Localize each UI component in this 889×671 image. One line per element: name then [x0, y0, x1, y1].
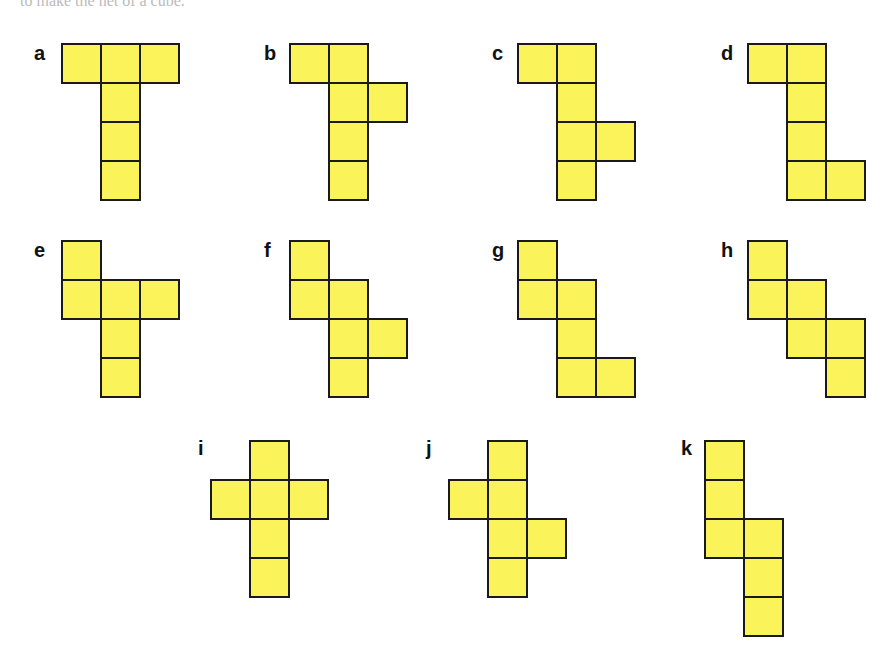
- net-d-square: [786, 121, 827, 162]
- net-label-e: e: [34, 239, 45, 262]
- net-e-square: [61, 240, 102, 281]
- net-k-square: [704, 440, 745, 481]
- net-label-c: c: [492, 42, 503, 65]
- net-f-square: [367, 318, 408, 359]
- net-b-square: [328, 160, 369, 201]
- net-h-square: [786, 279, 827, 320]
- net-f-square: [289, 240, 330, 281]
- net-j-square: [487, 479, 528, 520]
- net-label-j: j: [426, 437, 432, 460]
- net-d-square: [786, 43, 827, 84]
- net-k-square: [743, 518, 784, 559]
- net-e-square: [100, 279, 141, 320]
- net-g-square: [556, 357, 597, 398]
- net-h-square: [747, 279, 788, 320]
- net-j-square: [487, 440, 528, 481]
- net-h-square: [786, 318, 827, 359]
- net-label-g: g: [492, 239, 504, 262]
- net-i-square: [249, 479, 290, 520]
- net-b-square: [289, 43, 330, 84]
- net-j-square: [487, 557, 528, 598]
- net-f-square: [289, 279, 330, 320]
- net-label-d: d: [721, 42, 733, 65]
- net-g-square: [517, 240, 558, 281]
- net-a-square: [100, 43, 141, 84]
- net-a-square: [100, 160, 141, 201]
- net-a-square: [100, 82, 141, 123]
- net-c-square: [595, 121, 636, 162]
- net-e-square: [100, 357, 141, 398]
- net-label-a: a: [34, 42, 45, 65]
- net-d-square: [786, 82, 827, 123]
- net-d-square: [786, 160, 827, 201]
- net-c-square: [517, 43, 558, 84]
- net-c-square: [556, 160, 597, 201]
- net-f-square: [328, 279, 369, 320]
- net-c-square: [556, 43, 597, 84]
- net-a-square: [100, 121, 141, 162]
- net-label-h: h: [721, 239, 733, 262]
- net-i-square: [288, 479, 329, 520]
- net-j-square: [448, 479, 489, 520]
- net-k-square: [743, 557, 784, 598]
- net-h-square: [747, 240, 788, 281]
- net-g-square: [517, 279, 558, 320]
- net-e-square: [139, 279, 180, 320]
- net-k-square: [704, 479, 745, 520]
- net-j-square: [526, 518, 567, 559]
- net-h-square: [825, 357, 866, 398]
- net-d-square: [825, 160, 866, 201]
- net-k-square: [704, 518, 745, 559]
- net-label-i: i: [198, 437, 204, 460]
- net-i-square: [249, 557, 290, 598]
- net-g-square: [595, 357, 636, 398]
- net-i-square: [210, 479, 251, 520]
- net-b-square: [328, 82, 369, 123]
- net-b-square: [328, 43, 369, 84]
- net-a-square: [139, 43, 180, 84]
- net-h-square: [825, 318, 866, 359]
- net-e-square: [61, 279, 102, 320]
- net-g-square: [556, 318, 597, 359]
- net-j-square: [487, 518, 528, 559]
- net-i-square: [249, 518, 290, 559]
- net-g-square: [556, 279, 597, 320]
- net-k-square: [743, 596, 784, 637]
- net-d-square: [747, 43, 788, 84]
- net-b-square: [328, 121, 369, 162]
- net-label-f: f: [264, 239, 271, 262]
- net-c-square: [556, 121, 597, 162]
- net-label-b: b: [264, 42, 276, 65]
- net-i-square: [249, 440, 290, 481]
- net-label-k: k: [681, 437, 692, 460]
- net-c-square: [556, 82, 597, 123]
- net-e-square: [100, 318, 141, 359]
- net-b-square: [367, 82, 408, 123]
- net-f-square: [328, 357, 369, 398]
- net-f-square: [328, 318, 369, 359]
- instruction-text: to make the net of a cube.: [20, 0, 185, 10]
- net-a-square: [61, 43, 102, 84]
